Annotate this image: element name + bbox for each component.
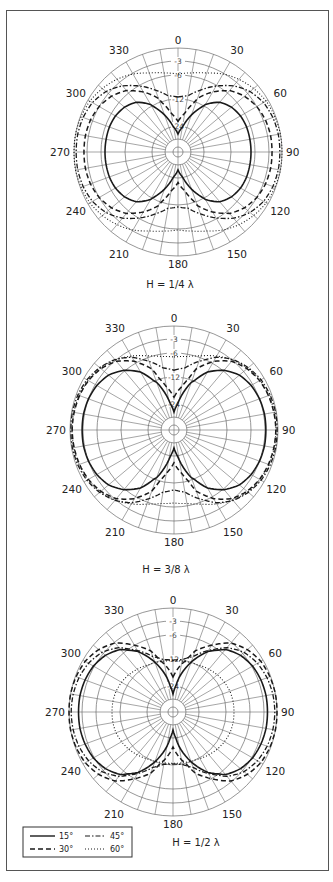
ring-label: -6 [174, 71, 182, 80]
angle-label: 90 [282, 424, 295, 436]
chart-caption: H = 3/8 λ [142, 564, 190, 575]
grid-spoke [156, 443, 172, 533]
grid-spoke [121, 622, 167, 701]
angle-label: 330 [105, 322, 125, 334]
grid-spoke [126, 62, 172, 141]
grid-spoke [138, 442, 169, 528]
ring-label: -3 [170, 335, 178, 344]
grid-spoke [175, 725, 191, 815]
angle-label: 210 [104, 808, 124, 820]
grid-spoke [185, 163, 231, 242]
angle-label: 180 [163, 818, 183, 830]
grid-spoke [93, 720, 163, 778]
grid-spoke [80, 156, 166, 187]
legend: 15° 45° 30° 60° [23, 827, 132, 857]
grid-spoke [75, 716, 161, 747]
grid-spoke [176, 443, 192, 533]
grid-spoke [142, 164, 173, 250]
angle-label: 240 [62, 483, 82, 495]
angle-label: 240 [66, 205, 86, 217]
grid-spoke [187, 432, 277, 448]
angle-label: 270 [45, 706, 65, 718]
grid-spoke [178, 332, 209, 418]
grid-spoke [185, 378, 264, 424]
chart-caption: H = 1/4 λ [146, 279, 194, 290]
grid-spoke [188, 160, 258, 218]
legend-label-30: 30° [59, 845, 73, 854]
grid-spoke [142, 54, 173, 140]
grid-spoke [180, 622, 226, 701]
ring-label: -3 [174, 57, 182, 66]
grid-spoke [186, 162, 244, 232]
angle-label: 120 [270, 205, 290, 217]
grid-spoke [76, 134, 166, 150]
polar-chart-1: 0306090120150180210240270300330-3-6-12-2… [50, 34, 299, 290]
grid-spoke [76, 154, 166, 170]
grid-spoke [71, 714, 161, 730]
grid-spoke [182, 54, 213, 140]
grid-spoke [184, 719, 263, 765]
grid-spoke [187, 412, 277, 428]
polar-chart-2: 0306090120150180210240270300330-3-6-12-2… [46, 312, 295, 575]
grid-spoke [84, 378, 163, 424]
legend-label-45: 45° [110, 832, 124, 841]
grid-spoke [137, 614, 168, 700]
grid-spoke [75, 676, 161, 707]
angle-label: 210 [109, 248, 129, 260]
antenna-pattern-figure: 0306090120150180210240270300330-3-6-12-2… [0, 0, 333, 882]
grid-spoke [84, 437, 163, 483]
grid-spoke [138, 332, 169, 418]
angle-label: 30 [225, 604, 238, 616]
grid-spoke [93, 645, 163, 703]
grid-spoke [98, 160, 168, 218]
grid-spoke [72, 412, 162, 428]
grid-spoke [71, 694, 161, 710]
angle-label: 30 [226, 322, 239, 334]
grid-spoke [188, 85, 258, 143]
grid-spoke [182, 164, 213, 250]
angle-label: 90 [286, 146, 299, 158]
grid-spoke [181, 632, 239, 702]
grid-spoke [185, 676, 271, 707]
grid-spoke [186, 72, 244, 142]
grid-spoke [190, 116, 276, 147]
grid-spoke [183, 645, 253, 703]
angle-label: 0 [171, 312, 178, 324]
angle-label: 240 [61, 765, 81, 777]
angle-label: 0 [175, 34, 182, 46]
angle-label: 120 [266, 483, 286, 495]
angle-label: 150 [223, 526, 243, 538]
grid-spoke [181, 340, 227, 419]
angle-label: 210 [105, 526, 125, 538]
legend-label-60: 60° [110, 845, 124, 854]
grid-spoke [83, 660, 162, 706]
grid-spoke [191, 154, 281, 170]
legend-label-15: 15° [59, 832, 73, 841]
chart-caption: H = 1/2 λ [172, 837, 220, 848]
polar-chart-3: 0306090120150180210240270300330-3-6-12-2… [45, 594, 294, 848]
ring-label: -12 [168, 373, 180, 382]
angle-label: 330 [109, 44, 129, 56]
angle-label: 0 [170, 594, 177, 606]
grid-spoke [186, 714, 276, 730]
grid-spoke [190, 156, 276, 187]
grid-spoke [184, 660, 263, 706]
angle-label: 300 [66, 87, 86, 99]
angle-label: 300 [61, 647, 81, 659]
ring-label: -6 [170, 349, 178, 358]
angle-label: 150 [222, 808, 242, 820]
angle-label: 60 [274, 87, 287, 99]
grid-spoke [126, 163, 172, 242]
grid-spoke [185, 716, 271, 747]
grid-spoke [186, 694, 276, 710]
angle-label: 330 [104, 604, 124, 616]
angle-label: 270 [50, 146, 70, 158]
grid-spoke [98, 85, 168, 143]
ring-label: -12 [167, 655, 179, 664]
grid-spoke [80, 116, 166, 147]
grid-spoke [111, 72, 169, 142]
grid-spoke [177, 614, 208, 700]
grid-spoke [106, 632, 164, 702]
grid-spoke [122, 441, 168, 520]
angle-label: 90 [281, 706, 294, 718]
